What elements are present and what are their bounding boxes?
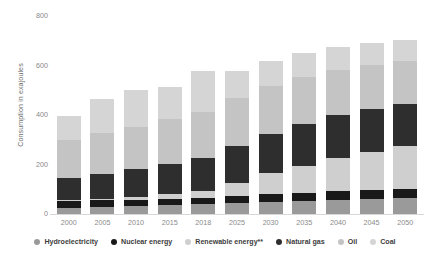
stacked-bar-chart: Consumption in exajoules 0200400600800 2… [0,0,430,263]
y-axis-tick-400: 400 [20,111,48,119]
bar-segment-hydroelectricity[interactable] [360,199,384,214]
bar-stack [225,71,249,214]
bar-segment-natural-gas[interactable] [259,134,283,174]
bar-segment-hydroelectricity[interactable] [225,203,249,214]
bar-segment-natural-gas[interactable] [393,104,417,146]
bar-stack [124,90,148,214]
bar-segment-natural-gas[interactable] [57,178,81,200]
bar-stack [191,71,215,214]
bar-segment-coal[interactable] [225,71,249,98]
bar-stack [259,61,283,214]
bar-segment-coal[interactable] [259,61,283,86]
bar-segment-renewable-energy[interactable] [326,158,350,191]
bar-stack [90,99,114,214]
y-axis-tick-600: 600 [20,62,48,70]
bar-segment-nuclear-energy[interactable] [393,189,417,199]
bar-stack [57,116,81,214]
bar-segment-hydroelectricity[interactable] [292,201,316,214]
legend-label: Oil [348,238,357,247]
bar-segment-coal[interactable] [191,71,215,112]
legend-label: Coal [380,238,395,247]
bar-segment-hydroelectricity[interactable] [191,204,215,214]
bar-segment-natural-gas[interactable] [90,174,114,199]
bar-segment-hydroelectricity[interactable] [393,198,417,214]
bar-segment-coal[interactable] [360,43,384,65]
y-axis-tick-200: 200 [20,161,48,169]
bar-segment-coal[interactable] [57,116,81,140]
bar-segment-hydroelectricity[interactable] [259,202,283,214]
y-axis-tick-0: 0 [20,210,48,218]
y-axis-tick-800: 800 [20,12,48,20]
bar-segment-hydroelectricity[interactable] [90,207,114,214]
bar-stack [326,47,350,214]
bar-segment-oil[interactable] [158,119,182,164]
bar-segment-coal[interactable] [292,53,316,77]
legend-item-hydroelectricity[interactable]: Hydroelectricity [34,238,98,247]
bar-segment-coal[interactable] [393,40,417,61]
bar-segment-renewable-energy[interactable] [292,166,316,193]
bar-segment-coal[interactable] [326,47,350,69]
legend-swatch-icon [185,239,191,245]
bar-segment-coal[interactable] [158,87,182,119]
legend-label: Renewable energy** [195,238,263,247]
bar-segment-nuclear-energy[interactable] [360,190,384,199]
legend-swatch-icon [338,239,344,245]
legend-swatch-icon [370,239,376,245]
legend-label: Nuclear energy [121,238,172,247]
bar-segment-renewable-energy[interactable] [360,152,384,190]
bar-stack [292,53,316,214]
bar-segment-renewable-energy[interactable] [225,183,249,197]
bar-segment-nuclear-energy[interactable] [292,193,316,201]
bar-segment-natural-gas[interactable] [225,146,249,183]
legend-swatch-icon [276,239,282,245]
bar-segment-oil[interactable] [259,86,283,134]
legend-item-nuclear-energy[interactable]: Nuclear energy [111,238,172,247]
bar-segment-oil[interactable] [124,127,148,170]
bar-stack [158,87,182,214]
legend-swatch-icon [111,239,117,245]
bar-segment-renewable-energy[interactable] [259,173,283,194]
bar-segment-nuclear-energy[interactable] [259,194,283,202]
bar-segment-oil[interactable] [225,98,249,146]
legend-swatch-icon [34,239,40,245]
bar-segment-hydroelectricity[interactable] [326,200,350,214]
legend-item-oil[interactable]: Oil [338,238,357,247]
bar-segment-nuclear-energy[interactable] [225,196,249,203]
bar-segment-oil[interactable] [360,65,384,110]
bar-segment-oil[interactable] [90,133,114,174]
bar-segment-natural-gas[interactable] [158,164,182,194]
legend-item-renewable-energy[interactable]: Renewable energy** [185,238,263,247]
bar-segment-oil[interactable] [292,77,316,124]
plot-area [52,16,422,214]
bar-segment-hydroelectricity[interactable] [158,205,182,214]
bar-segment-natural-gas[interactable] [326,115,350,158]
bar-segment-oil[interactable] [57,140,81,178]
bar-segment-renewable-energy[interactable] [393,146,417,189]
bar-segment-coal[interactable] [90,99,114,132]
bar-stack [393,40,417,214]
x-axis-line [50,214,424,215]
legend-label: Natural gas [286,238,325,247]
bar-segment-nuclear-energy[interactable] [326,191,350,200]
legend-label: Hydroelectricity [44,238,98,247]
bar-segment-natural-gas[interactable] [191,158,215,191]
bar-stack [360,43,384,214]
bar-segment-natural-gas[interactable] [292,124,316,166]
bar-segment-renewable-energy[interactable] [191,191,215,198]
bar-segment-nuclear-energy[interactable] [90,200,114,207]
bar-segment-coal[interactable] [124,90,148,127]
bar-segment-oil[interactable] [326,70,350,116]
bar-segment-natural-gas[interactable] [124,169,148,197]
legend-item-natural-gas[interactable]: Natural gas [276,238,325,247]
bar-segment-natural-gas[interactable] [360,109,384,152]
chart-legend: HydroelectricityNuclear energyRenewable … [0,234,430,250]
bar-segment-oil[interactable] [393,61,417,104]
bar-segment-hydroelectricity[interactable] [124,206,148,214]
x-axis-tick-2050: 2050 [385,218,425,228]
bar-segment-oil[interactable] [191,112,215,159]
legend-item-coal[interactable]: Coal [370,238,395,247]
